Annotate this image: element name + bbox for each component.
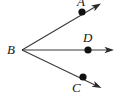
arrowhead-lower-icon	[92, 81, 103, 91]
label-point-b: B	[7, 43, 15, 56]
ray-lower-bc	[22, 50, 98, 86]
point-d-dot	[84, 46, 91, 53]
geometry-figure: B A D C	[0, 0, 121, 100]
label-point-d: D	[83, 31, 92, 44]
point-a-dot	[78, 8, 85, 15]
diagram-canvas	[0, 0, 121, 100]
label-point-a: A	[77, 0, 85, 8]
arrowhead-upper-icon	[91, 1, 103, 12]
label-point-c: C	[72, 81, 81, 94]
